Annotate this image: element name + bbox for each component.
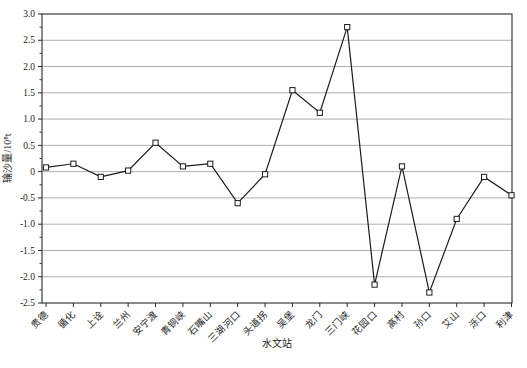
data-point-marker <box>290 88 295 93</box>
chart-svg: 3.02.52.01.51.00.50-0.5-1.0-1.5-2.0-2.5贵… <box>0 0 527 368</box>
y-tick-label: -2.5 <box>20 298 35 308</box>
grid-layer <box>42 40 512 276</box>
x-tick-label: 三门峡 <box>323 309 352 338</box>
x-tick-label: 孙口 <box>412 309 434 331</box>
x-tick-label: 艾山 <box>440 309 461 330</box>
y-tick-label: -1.5 <box>20 246 35 256</box>
y-tick-label: -0.5 <box>20 193 35 203</box>
y-tick-label: -1.0 <box>20 219 35 229</box>
x-tick-label: 青铜峡 <box>158 309 187 338</box>
y-axis-title: 输沙量/10⁸t <box>1 133 13 182</box>
data-point-marker <box>43 165 48 170</box>
x-tick-label: 泺口 <box>467 309 489 331</box>
x-tick-label: 龙门 <box>302 309 324 331</box>
y-tick-label: 3.0 <box>23 9 35 19</box>
data-point-marker <box>71 161 76 166</box>
data-point-marker <box>235 201 240 206</box>
data-point-marker <box>262 172 267 177</box>
series-layer <box>43 25 514 296</box>
data-point-marker <box>399 164 404 169</box>
y-tick-label: 0 <box>30 167 35 177</box>
x-tick-label: 循化 <box>56 309 78 331</box>
x-tick-label: 吴堡 <box>275 309 297 331</box>
data-point-marker <box>454 216 459 221</box>
x-tick-label: 利津 <box>494 309 516 331</box>
x-tick-label: 上诠 <box>83 309 105 331</box>
x-tick-label: 安宁渡 <box>131 309 160 338</box>
data-point-marker <box>509 193 514 198</box>
data-point-marker <box>98 174 103 179</box>
data-point-marker <box>482 174 487 179</box>
data-point-marker <box>427 290 432 295</box>
y-tick-label: 2.0 <box>23 62 35 72</box>
y-tick-label: -2.0 <box>20 272 35 282</box>
y-tick-label: 0.5 <box>23 141 35 151</box>
x-tick-label: 兰州 <box>111 309 133 331</box>
data-point-marker <box>372 282 377 287</box>
sediment-line-chart-figure: 3.02.52.01.51.00.50-0.5-1.0-1.5-2.0-2.5贵… <box>0 0 527 368</box>
data-point-marker <box>345 25 350 30</box>
x-axis-title: 水文站 <box>262 337 292 349</box>
x-tick-label: 头道拐 <box>240 309 269 338</box>
data-point-marker <box>153 140 158 145</box>
data-point-marker <box>208 161 213 166</box>
x-tick-label: 花园口 <box>350 309 379 338</box>
y-tick-label: 1.5 <box>23 88 35 98</box>
x-tick-label: 贵德 <box>28 309 50 331</box>
x-tick-label: 高村 <box>384 309 406 331</box>
y-tick-label: 1.0 <box>23 114 35 124</box>
data-point-marker <box>317 110 322 115</box>
y-tick-label: 2.5 <box>23 35 35 45</box>
data-point-marker <box>180 164 185 169</box>
data-point-marker <box>126 168 131 173</box>
